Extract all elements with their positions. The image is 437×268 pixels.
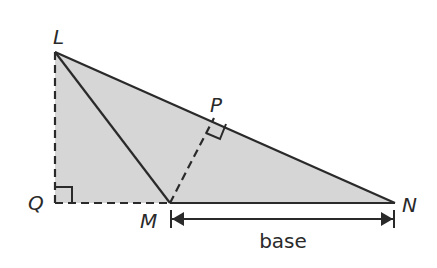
- arrowhead-left-icon: [172, 212, 184, 226]
- label-L: L: [53, 25, 64, 49]
- arrowhead-right-icon: [381, 212, 393, 226]
- base-label: base: [259, 229, 307, 253]
- label-M: M: [140, 209, 157, 233]
- label-Q: Q: [28, 191, 44, 215]
- label-N: N: [402, 193, 417, 217]
- label-P: P: [210, 93, 223, 117]
- triangle-diagram: L Q M N P base: [0, 0, 437, 268]
